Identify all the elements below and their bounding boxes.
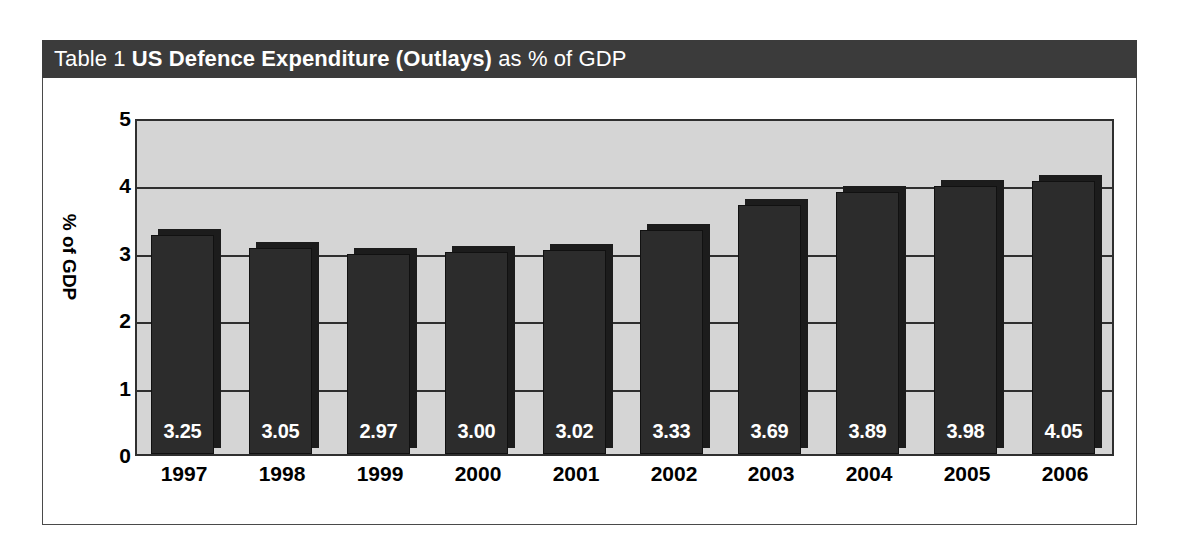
bar-value-label: 3.33 <box>641 420 702 443</box>
x-axis-tick-label: 2003 <box>722 462 820 486</box>
bar-face: 3.89 <box>836 192 899 454</box>
bar-value-label: 3.25 <box>152 420 213 443</box>
bar-face: 3.98 <box>934 186 997 454</box>
figure-frame: Table 1 US Defence Expenditure (Outlays)… <box>42 40 1137 525</box>
y-axis-tick-label: 2 <box>91 309 131 333</box>
bar[interactable]: 3.05 <box>249 242 319 454</box>
y-axis-tick-label: 3 <box>91 242 131 266</box>
x-axis-ticks: 1997199819992000200120022003200420052006 <box>135 462 1114 502</box>
x-axis-tick-label: 2000 <box>429 462 527 486</box>
bar-face: 3.25 <box>151 235 214 454</box>
bar[interactable]: 2.97 <box>347 248 417 454</box>
bar[interactable]: 4.05 <box>1032 175 1102 454</box>
x-axis-tick-label: 2004 <box>820 462 918 486</box>
y-axis-title-label: % of GDP <box>58 214 80 301</box>
y-axis-tick-label: 5 <box>91 107 131 131</box>
bar-face: 3.69 <box>738 205 801 454</box>
y-axis-title: % of GDP <box>51 157 87 357</box>
plot-area: 3.253.052.973.003.023.333.693.893.984.05 <box>135 119 1114 456</box>
figure-title-bar: Table 1 US Defence Expenditure (Outlays)… <box>42 40 1137 78</box>
bar-face: 3.05 <box>249 248 312 454</box>
plot-inner: 3.253.052.973.003.023.333.693.893.984.05 <box>137 121 1112 454</box>
x-axis-tick-label: 2005 <box>918 462 1016 486</box>
bar[interactable]: 3.00 <box>445 246 515 454</box>
y-axis-tick-label: 1 <box>91 377 131 401</box>
bar[interactable]: 3.89 <box>836 186 906 454</box>
bar-face: 3.02 <box>543 250 606 454</box>
y-axis-tick-label: 4 <box>91 174 131 198</box>
x-axis-tick-label: 2001 <box>527 462 625 486</box>
x-axis-tick-label: 1999 <box>331 462 429 486</box>
title-main: US Defence Expenditure (Outlays) <box>126 46 492 71</box>
bar-value-label: 2.97 <box>348 420 409 443</box>
bar[interactable]: 3.25 <box>151 229 221 454</box>
title-suffix: as % of GDP <box>492 46 626 71</box>
bar-face: 3.33 <box>640 230 703 454</box>
x-axis-tick-label: 2006 <box>1016 462 1114 486</box>
bar-value-label: 3.69 <box>739 420 800 443</box>
x-axis-tick-label: 1997 <box>135 462 233 486</box>
bar-value-label: 3.98 <box>935 420 996 443</box>
x-axis-tick-label: 2002 <box>625 462 723 486</box>
bar-value-label: 4.05 <box>1033 420 1094 443</box>
bar-value-label: 3.89 <box>837 420 898 443</box>
bar[interactable]: 3.69 <box>738 199 808 454</box>
bar-value-label: 3.00 <box>446 420 507 443</box>
bar-value-label: 3.05 <box>250 420 311 443</box>
chart-canvas: % of GDP 012345 3.253.052.973.003.023.33… <box>43 79 1136 524</box>
bar[interactable]: 3.33 <box>640 224 710 454</box>
bar-face: 2.97 <box>347 254 410 454</box>
figure-title: Table 1 US Defence Expenditure (Outlays)… <box>42 40 627 78</box>
y-axis-tick-label: 0 <box>91 444 131 468</box>
bar-value-label: 3.02 <box>544 420 605 443</box>
y-axis-ticks: 012345 <box>87 79 131 524</box>
bar[interactable]: 3.02 <box>543 244 613 454</box>
title-prefix: Table 1 <box>54 46 126 71</box>
bar-face: 4.05 <box>1032 181 1095 454</box>
bar-face: 3.00 <box>445 252 508 454</box>
x-axis-tick-label: 1998 <box>233 462 331 486</box>
bar[interactable]: 3.98 <box>934 180 1004 454</box>
